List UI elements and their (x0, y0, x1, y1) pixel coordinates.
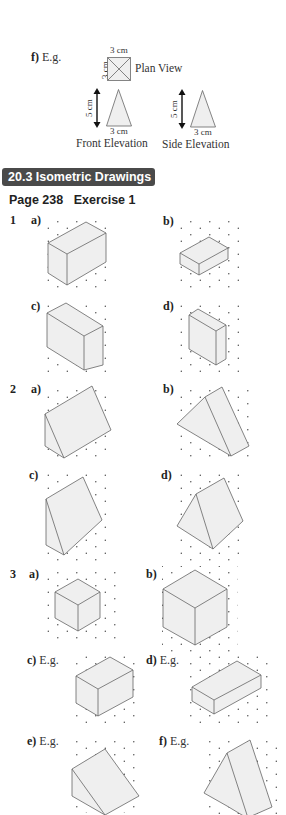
figure-1a (46, 218, 108, 290)
isometric-figures (0, 0, 286, 815)
figure-3f (202, 738, 280, 815)
figure-1b (178, 218, 240, 290)
figure-1d (178, 302, 240, 374)
figure-2b (176, 385, 256, 461)
figure-3b (162, 566, 238, 654)
figure-3e (70, 738, 142, 815)
figure-2d (176, 470, 246, 562)
figure-3d (190, 656, 268, 728)
figure-1c (44, 302, 106, 374)
figure-2a (44, 385, 114, 461)
figure-2c (44, 470, 106, 562)
figure-3c (74, 656, 136, 728)
figure-3a (44, 571, 116, 643)
